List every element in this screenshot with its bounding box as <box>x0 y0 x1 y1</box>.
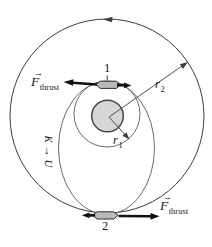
r1-subscript: 1 <box>118 140 122 150</box>
thrust-arrow-1-head-icon <box>64 79 74 86</box>
exhaust-arrow-2-head-icon <box>82 212 90 218</box>
inner-radius-label: r1 <box>113 134 123 148</box>
exhaust-arrow-1-head-icon <box>124 82 132 88</box>
orbital-transfer-diagram: 1 2 r1 r2 →Fthrust →Fthrust K → U <box>0 0 212 247</box>
thrust-subscript-bottom: thrust <box>169 206 188 216</box>
spacecraft-1 <box>96 81 119 88</box>
thrust-force-label-bottom: →Fthrust <box>160 199 188 214</box>
force-vector-symbol-top: →F <box>31 75 39 88</box>
r2-subscript: 2 <box>160 84 164 94</box>
point-1-label: 1 <box>102 62 112 75</box>
point-2-label: 2 <box>100 220 110 233</box>
r2-arrowhead-icon <box>180 62 188 69</box>
thrust-subscript-top: thrust <box>40 82 59 92</box>
spacecraft-2 <box>95 212 118 219</box>
thrust-arrow-2-head-icon <box>151 213 160 220</box>
thrust-arrow-1-shaft <box>73 83 98 85</box>
vector-arrow-icon: → <box>34 67 42 80</box>
energy-conversion-label: K → U <box>41 124 56 180</box>
force-vector-symbol-bottom: →F <box>160 199 168 212</box>
orbit-direction-arrowhead-icon <box>103 17 113 23</box>
thrust-force-label-top: →Fthrust <box>31 75 59 90</box>
vector-arrow-icon: → <box>163 191 171 204</box>
outer-radius-label: r2 <box>155 78 165 92</box>
